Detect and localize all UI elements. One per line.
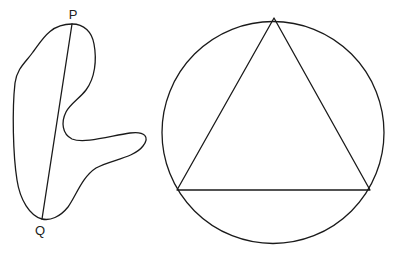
irregular-closed-curve xyxy=(13,24,146,220)
chord-pq xyxy=(42,24,72,219)
circumscribed-circle xyxy=(162,22,384,244)
circle-triangle-figure xyxy=(162,18,384,244)
point-p-label: P xyxy=(69,7,78,22)
irregular-shape-figure: P Q xyxy=(13,7,146,238)
point-q-label: Q xyxy=(35,223,45,238)
diagram-canvas: P Q xyxy=(0,0,393,257)
